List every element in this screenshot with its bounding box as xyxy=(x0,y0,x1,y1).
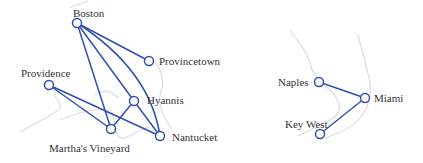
label-key-west: Key West xyxy=(285,118,328,130)
node-hyannis xyxy=(130,97,139,106)
edge-boston-hyannis xyxy=(77,23,134,101)
edge-providence-nantucket xyxy=(49,85,160,136)
label-miami: Miami xyxy=(374,92,403,104)
label-marthas-vineyard: Martha's Vineyard xyxy=(49,142,130,154)
node-naples xyxy=(315,78,324,87)
node-nantucket xyxy=(156,132,165,141)
label-naples: Naples xyxy=(278,76,309,88)
node-boston xyxy=(73,19,82,28)
label-provincetown: Provincetown xyxy=(159,55,220,67)
node-provincetown xyxy=(145,57,154,66)
label-boston: Boston xyxy=(73,7,104,19)
label-nantucket: Nantucket xyxy=(172,131,217,143)
edge-naples-miami xyxy=(319,82,365,98)
node-providence xyxy=(45,81,54,90)
label-providence: Providence xyxy=(21,67,70,79)
node-key-west xyxy=(316,130,325,139)
label-hyannis: Hyannis xyxy=(147,94,184,106)
flight-route-diagram: Boston Provincetown Providence Hyannis M… xyxy=(0,0,423,163)
node-marthas-vineyard xyxy=(107,125,116,134)
node-miami xyxy=(361,94,370,103)
